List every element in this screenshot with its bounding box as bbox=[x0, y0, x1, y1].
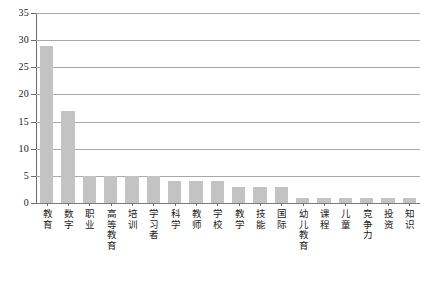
x-axis-label: 教学 bbox=[234, 209, 244, 230]
x-tick bbox=[260, 203, 261, 206]
x-tick bbox=[89, 203, 90, 206]
bar bbox=[104, 176, 117, 203]
y-tick-0 bbox=[31, 203, 36, 204]
bar bbox=[125, 176, 138, 203]
x-tick bbox=[324, 203, 325, 206]
y-axis-label-text: 0 bbox=[24, 198, 29, 208]
x-axis-label: 国际 bbox=[276, 209, 286, 230]
bar bbox=[211, 181, 224, 203]
x-axis-label: 竞争力 bbox=[362, 209, 372, 241]
y-axis-label-text: 10 bbox=[19, 144, 29, 154]
y-axis-label-text: 25 bbox=[19, 62, 29, 72]
x-tick bbox=[47, 203, 48, 206]
x-tick bbox=[388, 203, 389, 206]
x-axis-label: 数字 bbox=[63, 209, 73, 230]
x-tick bbox=[175, 203, 176, 206]
x-axis-label: 课程 bbox=[319, 209, 329, 230]
y-axis-label: 35 bbox=[0, 8, 29, 18]
bar bbox=[253, 187, 266, 203]
x-tick bbox=[68, 203, 69, 206]
bar bbox=[83, 176, 96, 203]
bar-chart-figure: 05101520253035 教育数字职业高等教育培训学习者科学教师学校教学技能… bbox=[0, 0, 431, 295]
bar bbox=[275, 187, 288, 203]
y-axis-label: 5 bbox=[0, 171, 29, 181]
x-axis-label: 投资 bbox=[383, 209, 393, 230]
y-axis-label: 25 bbox=[0, 62, 29, 72]
x-tick bbox=[132, 203, 133, 206]
bar bbox=[232, 187, 245, 203]
y-axis-label-text: 15 bbox=[19, 117, 29, 127]
bar bbox=[168, 181, 181, 203]
y-axis-label: 30 bbox=[0, 35, 29, 45]
y-axis-label-text: 5 bbox=[24, 171, 29, 181]
x-axis-label: 技能 bbox=[255, 209, 265, 230]
x-axis-label: 高等教育 bbox=[106, 209, 116, 251]
bar bbox=[61, 111, 74, 203]
y-axis-label-text: 20 bbox=[19, 89, 29, 99]
x-axis-labels-group: 教育数字职业高等教育培训学习者科学教师学校教学技能国际幼儿教育课程儿童竞争力投资… bbox=[36, 206, 420, 294]
x-tick bbox=[367, 203, 368, 206]
bars-group bbox=[36, 13, 420, 203]
x-tick bbox=[111, 203, 112, 206]
x-axis-label: 科学 bbox=[170, 209, 180, 230]
x-axis-label: 学习者 bbox=[148, 209, 158, 241]
y-axis-label: 10 bbox=[0, 144, 29, 154]
x-axis-label: 培训 bbox=[127, 209, 137, 230]
x-tick bbox=[239, 203, 240, 206]
x-axis-label: 教师 bbox=[191, 209, 201, 230]
x-axis-label: 幼儿教育 bbox=[298, 209, 308, 251]
x-axis-label: 知识 bbox=[404, 209, 414, 230]
y-axis-label: 20 bbox=[0, 89, 29, 99]
x-axis-label: 教育 bbox=[42, 209, 52, 230]
x-axis-label: 学校 bbox=[212, 209, 222, 230]
x-tick bbox=[303, 203, 304, 206]
x-axis-label: 职业 bbox=[84, 209, 94, 230]
x-tick bbox=[345, 203, 346, 206]
x-tick bbox=[281, 203, 282, 206]
y-axis-label: 0 bbox=[0, 198, 29, 208]
x-tick bbox=[196, 203, 197, 206]
bar bbox=[40, 46, 53, 203]
gridline-0 bbox=[36, 203, 420, 204]
x-tick bbox=[153, 203, 154, 206]
bar bbox=[189, 181, 202, 203]
y-axis-label-text: 30 bbox=[19, 35, 29, 45]
y-axis-label: 15 bbox=[0, 117, 29, 127]
x-tick bbox=[217, 203, 218, 206]
x-tick bbox=[409, 203, 410, 206]
bar bbox=[147, 176, 160, 203]
x-axis-label: 儿童 bbox=[340, 209, 350, 230]
y-axis-label-text: 35 bbox=[19, 8, 29, 18]
